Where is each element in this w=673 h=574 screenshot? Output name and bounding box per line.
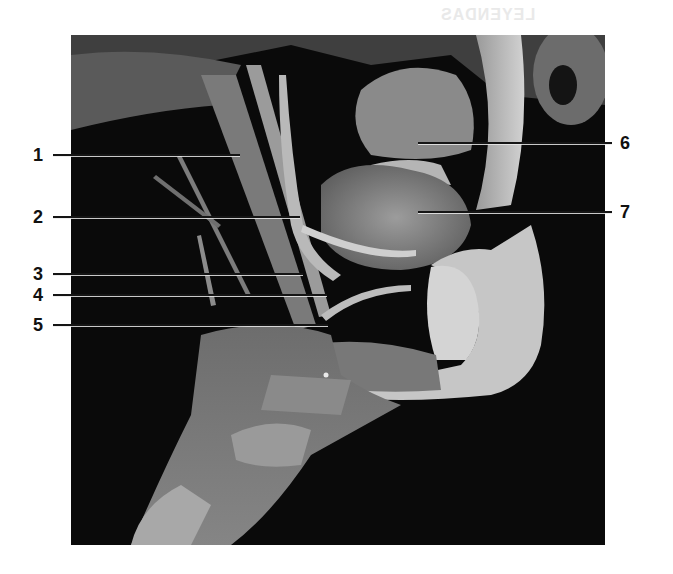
leader-line-4: [53, 294, 327, 296]
anatomy-illustration: [71, 35, 605, 545]
label-5: 5: [33, 316, 43, 334]
leader-line-2: [53, 216, 300, 218]
leader-line-7: [418, 211, 612, 213]
leader-line-1: [53, 154, 240, 156]
bleed-through-text: LEYENDAS: [440, 6, 535, 24]
leader-line-3: [53, 273, 303, 275]
leader-line-6: [418, 142, 612, 144]
label-7: 7: [620, 203, 630, 221]
dissection-photo: [71, 35, 605, 545]
label-1: 1: [33, 146, 43, 164]
label-3: 3: [33, 265, 43, 283]
label-2: 2: [33, 208, 43, 226]
label-6: 6: [620, 134, 630, 152]
label-4: 4: [33, 286, 43, 304]
leader-line-5: [53, 324, 328, 326]
